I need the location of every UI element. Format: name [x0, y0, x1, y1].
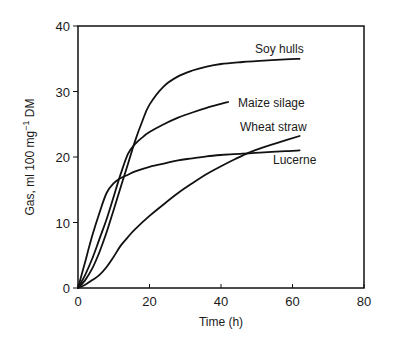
gas-production-chart: 020406080 010203040 Soy hullsMaize silag…: [0, 0, 395, 349]
x-tick-label: 0: [74, 294, 81, 309]
y-axis-label-superscript: −1: [21, 121, 31, 131]
y-tick-label: 20: [56, 150, 70, 165]
y-axis-label-main: Gas, ml 100 mg: [23, 131, 37, 216]
label-soy-hulls: Soy hulls: [255, 42, 304, 56]
label-maize-silage: Maize silage: [238, 96, 305, 110]
series-curves: [78, 59, 300, 288]
x-tick-label: 80: [357, 294, 371, 309]
y-axis-label-unit: DM: [23, 99, 37, 121]
y-tick-label: 40: [56, 19, 70, 34]
curve-maize-silage: [78, 102, 228, 288]
label-wheat-straw: Wheat straw: [240, 120, 307, 134]
x-axis-label: Time (h): [199, 315, 243, 329]
y-tick-label: 10: [56, 216, 70, 231]
label-lucerne: Lucerne: [273, 153, 317, 167]
x-tick-label: 40: [214, 294, 228, 309]
plot-border: [78, 26, 364, 288]
x-tick-label: 20: [142, 294, 156, 309]
y-axis-label: Gas, ml 100 mg−1 DM: [21, 99, 37, 216]
y-tick-label: 0: [63, 281, 70, 296]
plot-frame: [78, 26, 364, 288]
curve-soy-hulls: [78, 59, 300, 288]
y-tick-label: 30: [56, 85, 70, 100]
y-axis-ticks: 010203040: [56, 19, 78, 296]
x-tick-label: 60: [285, 294, 299, 309]
